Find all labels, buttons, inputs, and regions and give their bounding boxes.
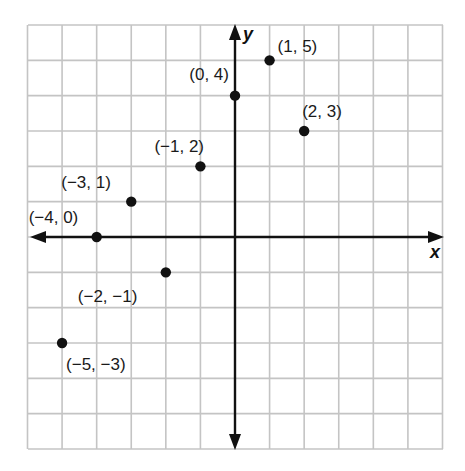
data-point (230, 90, 240, 100)
point-label: (−4, 0) (29, 208, 79, 227)
point-label: (−5, −3) (66, 355, 126, 374)
point-label: (−3, 1) (61, 173, 111, 192)
data-point (126, 196, 136, 206)
x-axis-left-arrow-icon (30, 231, 46, 243)
data-point (57, 338, 67, 348)
data-point (264, 55, 274, 65)
data-point (161, 267, 171, 277)
coordinate-plane: y x (1, 5)(0, 4)(2, 3)(−1, 2)(−3, 1)(−4,… (0, 0, 465, 471)
y-axis-up-arrow-icon (229, 24, 241, 40)
point-label: (0, 4) (189, 65, 229, 84)
data-points: (1, 5)(0, 4)(2, 3)(−1, 2)(−3, 1)(−4, 0)(… (29, 37, 342, 374)
data-point (91, 232, 101, 242)
data-point (195, 161, 205, 171)
point-label: (2, 3) (302, 102, 342, 121)
x-axis-label: x (429, 242, 441, 262)
data-point (299, 126, 309, 136)
point-label: (−1, 2) (154, 137, 204, 156)
point-label: (−2, −1) (78, 287, 138, 306)
point-label: (1, 5) (278, 37, 318, 56)
y-axis-down-arrow-icon (229, 434, 241, 450)
y-axis-label: y (242, 24, 254, 44)
